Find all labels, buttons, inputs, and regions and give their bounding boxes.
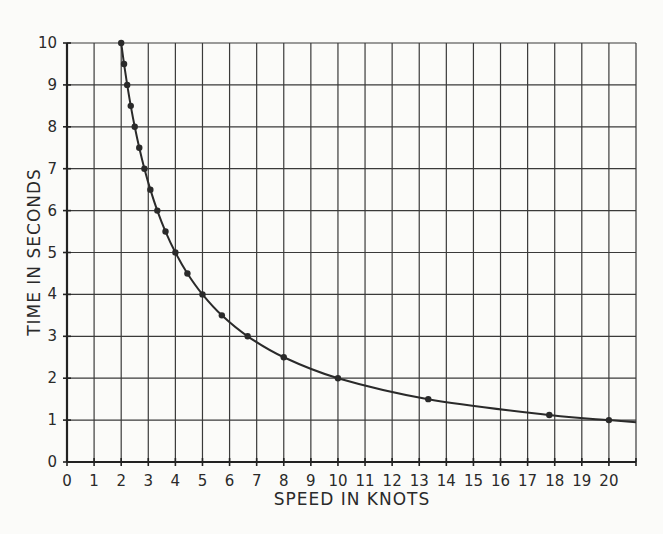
x-tick-label: 5	[198, 472, 208, 490]
grid	[67, 43, 636, 462]
x-tick-label: 13	[410, 472, 429, 490]
x-tick-label: 15	[464, 472, 483, 490]
x-tick-label: 16	[491, 472, 510, 490]
speed-time-chart: 01234567891011121314151617181920 0123456…	[0, 0, 663, 534]
x-tick-label: 7	[252, 472, 262, 490]
data-point	[546, 412, 552, 418]
data-point	[219, 312, 225, 318]
data-point	[425, 396, 431, 402]
x-tick-label: 18	[545, 472, 564, 490]
x-tick-label: 11	[356, 472, 375, 490]
y-tick-label: 10	[38, 34, 57, 52]
data-point	[199, 291, 205, 297]
y-tick-label: 6	[47, 202, 57, 220]
data-point	[162, 228, 168, 234]
data-point	[136, 145, 142, 151]
x-tick-label: 9	[306, 472, 316, 490]
y-tick-label: 7	[47, 160, 57, 178]
y-tick-label: 2	[47, 369, 57, 387]
data-point	[184, 270, 190, 276]
y-tick-label: 1	[47, 411, 57, 429]
x-tick-label: 6	[225, 472, 235, 490]
data-point	[124, 82, 130, 88]
x-tick-label: 4	[171, 472, 181, 490]
data-point	[172, 249, 178, 255]
x-tick-label: 0	[62, 472, 72, 490]
data-point	[154, 207, 160, 213]
x-tick-label: 17	[518, 472, 537, 490]
y-tick-label: 4	[47, 285, 57, 303]
y-tick-label: 0	[47, 453, 57, 471]
data-point	[121, 61, 127, 67]
x-tick-label: 12	[383, 472, 402, 490]
x-axis-label: SPEED IN KNOTS	[274, 489, 431, 509]
x-tick-label: 10	[328, 472, 347, 490]
y-tick-label: 8	[47, 118, 57, 136]
x-tick-label: 20	[599, 472, 618, 490]
data-point	[118, 40, 124, 46]
axes	[63, 43, 636, 466]
y-tick-label: 9	[47, 76, 57, 94]
x-tick-label: 1	[89, 472, 99, 490]
data-point	[132, 124, 138, 130]
data-point	[335, 375, 341, 381]
y-axis-label: TIME IN SECONDS	[24, 168, 44, 337]
data-point	[244, 333, 250, 339]
x-tick-label: 19	[572, 472, 591, 490]
data-point	[147, 186, 153, 192]
x-tick-labels: 01234567891011121314151617181920	[62, 472, 618, 490]
x-tick-label: 8	[279, 472, 289, 490]
data-point	[281, 354, 287, 360]
data-point	[606, 417, 612, 423]
x-tick-label: 2	[116, 472, 126, 490]
data-point	[128, 103, 134, 109]
x-tick-label: 14	[437, 472, 456, 490]
data-curve	[121, 43, 636, 422]
x-tick-label: 3	[144, 472, 154, 490]
data-point	[141, 166, 147, 172]
y-tick-label: 5	[47, 244, 57, 262]
y-tick-label: 3	[47, 327, 57, 345]
